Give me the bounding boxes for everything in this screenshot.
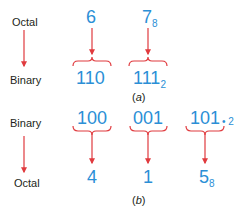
octal-digit-7: 78	[142, 8, 158, 26]
octal-digit-5: 58	[199, 168, 215, 186]
caption-b: (b)	[132, 195, 145, 206]
label-octal-a: Octal	[12, 17, 38, 28]
subscript-8: 8	[152, 18, 158, 29]
radix-note: • 2	[222, 117, 234, 127]
subscript-8-b: 8	[209, 178, 215, 189]
octal-digit-1: 1	[143, 168, 153, 186]
caption-a: (a)	[132, 92, 145, 103]
brace-111	[129, 57, 167, 66]
binary-111: 1112	[133, 69, 166, 87]
brace-110	[73, 57, 111, 66]
octal-digit-6: 6	[86, 8, 96, 26]
label-binary-b: Binary	[10, 118, 41, 129]
binary-001: 001	[133, 109, 163, 127]
octal-digit-4: 4	[87, 168, 97, 186]
subscript-2: 2	[160, 79, 166, 90]
label-octal-b: Octal	[14, 178, 40, 189]
binary-110: 110	[76, 69, 105, 87]
binary-101: 101	[190, 109, 220, 127]
label-binary-a: Binary	[10, 75, 41, 86]
binary-100: 100	[77, 109, 107, 127]
